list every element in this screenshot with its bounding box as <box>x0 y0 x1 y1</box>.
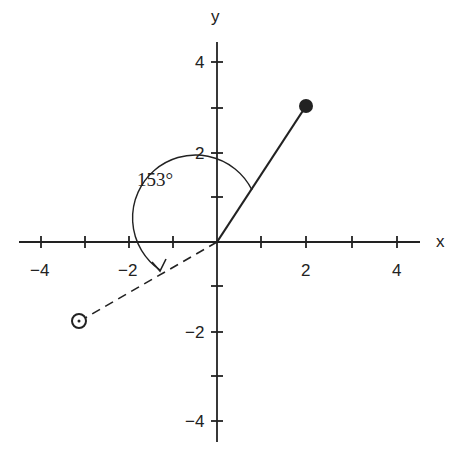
y-tick-label: 4 <box>195 54 204 71</box>
y-tick-label: −4 <box>185 413 204 430</box>
y-tick-label: 2 <box>195 145 204 162</box>
filled-endpoint <box>299 99 313 113</box>
arc-arrowhead-icon <box>152 259 166 271</box>
y-axis-label: y <box>211 8 220 25</box>
x-tick-label: −2 <box>118 262 137 279</box>
open-endpoint-center <box>78 320 81 323</box>
x-axis-label: x <box>436 233 445 250</box>
coordinate-plane <box>0 0 468 459</box>
x-tick-label: 4 <box>392 262 401 279</box>
dashed-vector <box>85 242 217 318</box>
solid-vector <box>217 106 306 242</box>
x-tick-label: −4 <box>30 262 49 279</box>
y-tick-label: −2 <box>185 324 204 341</box>
x-tick-label: 2 <box>301 262 310 279</box>
angle-label: 153° <box>137 170 173 189</box>
